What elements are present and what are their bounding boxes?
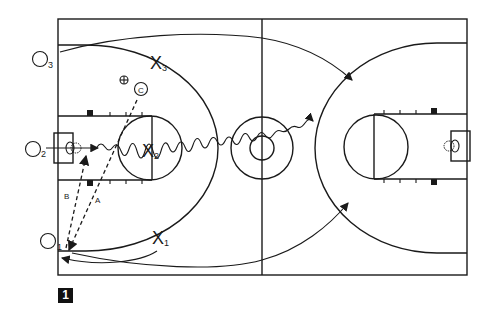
svg-text:X: X (142, 141, 154, 161)
basketball-icon (120, 76, 128, 84)
x1-recover-path (62, 251, 157, 263)
coach-marker[interactable]: C (135, 83, 148, 96)
pass-label-b: B (64, 192, 69, 201)
player-x1[interactable]: X 1 (152, 228, 169, 248)
player-o1[interactable]: 1 (41, 234, 63, 253)
svg-text:2: 2 (154, 151, 159, 161)
basketball-court-diagram: 3 2 1 X 3 X 2 X 1 C B A (0, 0, 493, 319)
svg-text:3: 3 (48, 60, 53, 70)
player-x3[interactable]: X 3 (150, 53, 167, 73)
svg-text:3: 3 (162, 63, 167, 73)
player-x2[interactable]: X 2 (142, 141, 159, 161)
svg-text:2: 2 (41, 149, 46, 159)
svg-text:X: X (152, 228, 164, 248)
pass-a-line (69, 100, 137, 250)
right-half-court (315, 43, 470, 253)
figure-number-badge: 1 (58, 288, 73, 303)
o1-cut-path (72, 203, 348, 267)
pass-label-a: A (95, 196, 101, 205)
player-o2[interactable]: 2 (26, 142, 47, 160)
svg-text:X: X (150, 53, 162, 73)
player-o3[interactable]: 3 (33, 52, 54, 71)
dribble-path (97, 119, 313, 158)
svg-text:C: C (138, 86, 144, 95)
o3-cut-path (60, 34, 352, 80)
svg-text:1: 1 (164, 238, 169, 248)
svg-text:1: 1 (57, 242, 62, 252)
